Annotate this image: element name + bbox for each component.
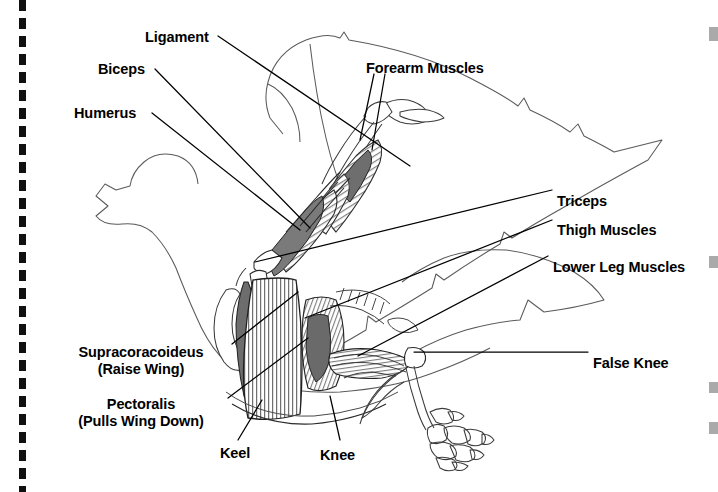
lower-leg-leader <box>358 256 548 356</box>
leader-line-group <box>152 36 588 440</box>
lower-leg-muscle-group <box>329 348 426 379</box>
bird-body-outline <box>96 32 662 392</box>
ribcage-group <box>336 288 418 333</box>
biceps-leader <box>155 69 310 228</box>
label-humerus: Humerus <box>74 105 136 122</box>
diagram-page: LigamentBicepsHumerusForearm MusclesTric… <box>0 0 718 492</box>
label-thigh-muscles: Thigh Muscles <box>557 222 656 239</box>
label-ligament: Ligament <box>145 29 209 46</box>
label-keel: Keel <box>220 445 250 462</box>
foot-group <box>344 366 494 471</box>
label-supracoracoideus-line2: (Raise Wing) <box>50 361 232 378</box>
label-supracoracoideus: Supracoracoideus(Raise Wing) <box>50 344 232 378</box>
label-pectoralis-line1: Pectoralis <box>50 396 232 413</box>
ligament-leader <box>218 36 410 166</box>
label-supracoracoideus-line1: Supracoracoideus <box>50 344 232 361</box>
label-forearm-muscles: Forearm Muscles <box>366 60 484 77</box>
humerus-leader <box>152 113 300 230</box>
thigh-leader <box>305 220 552 318</box>
knee-leader <box>330 396 340 440</box>
label-lower-leg-muscles: Lower Leg Muscles <box>553 259 685 276</box>
label-false-knee: False Knee <box>593 355 669 372</box>
label-biceps: Biceps <box>98 61 145 78</box>
label-knee: Knee <box>320 447 355 464</box>
label-pectoralis-line2: (Pulls Wing Down) <box>50 413 232 430</box>
label-triceps: Triceps <box>557 193 607 210</box>
label-pectoralis: Pectoralis(Pulls Wing Down) <box>50 396 232 430</box>
